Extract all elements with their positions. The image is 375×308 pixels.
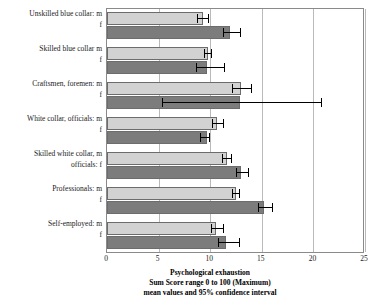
error-bar-male xyxy=(212,117,223,130)
bar-female[interactable] xyxy=(107,236,226,249)
whisker-cap-low xyxy=(222,154,223,163)
whisker-cap-high xyxy=(321,98,322,107)
whisker-cap-low xyxy=(232,189,233,198)
bar-track xyxy=(107,166,365,179)
error-bar-female xyxy=(162,96,322,109)
axis-title-block: Psychological exhaustion Sum Score range… xyxy=(60,268,360,298)
bar-track xyxy=(107,26,365,39)
bar-track xyxy=(107,222,365,235)
whisker-cap-low xyxy=(232,84,233,93)
whisker-cap-high xyxy=(272,203,273,212)
category-label: Skilled white collar, mofficials: f xyxy=(0,150,102,169)
whisker-line xyxy=(218,242,240,243)
whisker-cap-high xyxy=(224,63,225,72)
bar-male[interactable] xyxy=(107,47,208,60)
bar-track xyxy=(107,152,365,165)
whisker-line xyxy=(232,88,253,89)
whisker-cap-high xyxy=(239,238,240,247)
category-label-male: Self-employed: m xyxy=(0,220,102,228)
whisker-line xyxy=(196,67,225,68)
x-tick-label: 0 xyxy=(104,254,108,263)
category-label-female: f xyxy=(0,91,102,99)
whisker-cap-low xyxy=(223,28,224,37)
category-label: Skilled blue collar mf xyxy=(0,45,102,64)
bar-male[interactable] xyxy=(107,82,241,95)
error-bar-male xyxy=(232,82,253,95)
category-label-female: f xyxy=(0,126,102,134)
bar-track xyxy=(107,131,365,144)
whisker-cap-high xyxy=(251,84,252,93)
bar-male[interactable] xyxy=(107,12,203,25)
whisker-cap-high xyxy=(240,28,241,37)
bar-track xyxy=(107,117,365,130)
whisker-cap-high xyxy=(211,49,212,58)
error-bar-female xyxy=(200,131,210,144)
category-label: Craftsmen, foremen: mf xyxy=(0,80,102,99)
psychological-exhaustion-chart: Unskilled blue collar: mfSkilled blue co… xyxy=(0,0,375,308)
category-label-female: officials: f xyxy=(0,161,102,169)
bar-track xyxy=(107,187,365,200)
bar-track xyxy=(107,47,365,60)
whisker-cap-low xyxy=(204,49,205,58)
whisker-cap-high xyxy=(223,119,224,128)
error-bar-male xyxy=(204,47,212,60)
bar-female[interactable] xyxy=(107,61,207,74)
error-bar-male xyxy=(197,12,209,25)
x-tick-label: 20 xyxy=(309,254,317,263)
bar-female[interactable] xyxy=(107,131,207,144)
x-tick-label: 5 xyxy=(156,254,160,263)
x-tick-label: 10 xyxy=(205,254,213,263)
whisker-line xyxy=(258,207,273,208)
bar-female[interactable] xyxy=(107,201,264,214)
error-bar-male xyxy=(232,187,240,200)
whisker-cap-high xyxy=(209,133,210,142)
bar-male[interactable] xyxy=(107,187,236,200)
bar-female[interactable] xyxy=(107,166,241,179)
error-bar-female xyxy=(236,166,249,179)
category-label-female: f xyxy=(0,21,102,29)
whisker-cap-low xyxy=(211,224,212,233)
category-label: Self-employed: mf xyxy=(0,220,102,239)
value-axis-ticks: 0510152025 xyxy=(106,254,364,268)
chart-subtitle-2: mean values and 95% confidence interval xyxy=(60,288,360,298)
whisker-cap-low xyxy=(212,119,213,128)
whisker-cap-low xyxy=(258,203,259,212)
category-label: Unskilled blue collar: mf xyxy=(0,10,102,29)
x-tick-label: 15 xyxy=(257,254,265,263)
bar-track xyxy=(107,96,365,109)
category-label-female: f xyxy=(0,196,102,204)
plot-area xyxy=(106,8,364,253)
gridline xyxy=(365,9,366,252)
category-axis-labels: Unskilled blue collar: mfSkilled blue co… xyxy=(0,8,102,253)
bar-male[interactable] xyxy=(107,117,217,130)
category-label-female: f xyxy=(0,56,102,64)
bar-male[interactable] xyxy=(107,152,227,165)
whisker-cap-high xyxy=(248,168,249,177)
error-bar-male xyxy=(211,222,223,235)
whisker-line xyxy=(236,172,249,173)
chart-subtitle: Sum Score range 0 to 100 (Maximum) xyxy=(60,278,360,288)
whisker-cap-low xyxy=(236,168,237,177)
whisker-line xyxy=(162,102,322,103)
category-label-male: Skilled blue collar m xyxy=(0,45,102,53)
x-tick-label: 25 xyxy=(360,254,368,263)
category-label-male: Skilled white collar, m xyxy=(0,150,102,158)
error-bar-female xyxy=(223,26,242,39)
whisker-cap-high xyxy=(208,14,209,23)
category-label-male: Professionals: m xyxy=(0,185,102,193)
category-label-male: White collar, officials: m xyxy=(0,115,102,123)
bar-track xyxy=(107,201,365,214)
category-label-male: Unskilled blue collar: m xyxy=(0,10,102,18)
whisker-cap-low xyxy=(197,14,198,23)
category-label-female: f xyxy=(0,231,102,239)
bar-track xyxy=(107,82,365,95)
bar-male[interactable] xyxy=(107,222,216,235)
whisker-cap-low xyxy=(218,238,219,247)
error-bar-female xyxy=(258,201,273,214)
whisker-line xyxy=(223,32,242,33)
bar-female[interactable] xyxy=(107,26,230,39)
bar-track xyxy=(107,12,365,25)
whisker-cap-high xyxy=(223,224,224,233)
error-bar-male xyxy=(222,152,232,165)
bar-track xyxy=(107,61,365,74)
